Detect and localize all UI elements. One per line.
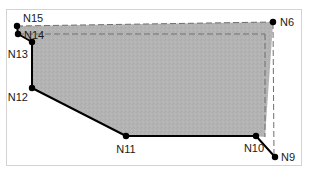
- shaded-polygon: [17, 22, 273, 137]
- node-label-n13: N13: [8, 48, 28, 60]
- polygon-diagram: N15N14N13N12N11N10N9N6: [0, 0, 311, 178]
- node-label-n15: N15: [23, 12, 43, 24]
- region-group: [17, 22, 273, 137]
- node-label-n9: N9: [281, 151, 295, 163]
- node-dot-n9[interactable]: [272, 154, 278, 160]
- node-dot-n6[interactable]: [270, 19, 276, 25]
- figure-root: N15N14N13N12N11N10N9N6: [0, 0, 311, 178]
- node-label-n10: N10: [244, 142, 264, 154]
- node-dot-n14[interactable]: [15, 31, 21, 37]
- node-dot-n15[interactable]: [14, 23, 20, 29]
- node-dot-n10[interactable]: [253, 133, 259, 139]
- node-dot-n12[interactable]: [29, 85, 35, 91]
- node-label-n12: N12: [8, 91, 28, 103]
- node-label-n11: N11: [116, 143, 135, 155]
- node-dot-n11[interactable]: [123, 133, 129, 139]
- node-label-n14: N14: [24, 29, 44, 41]
- dashed-right-n6-n9: [273, 23, 274, 156]
- node-label-n6: N6: [280, 16, 294, 28]
